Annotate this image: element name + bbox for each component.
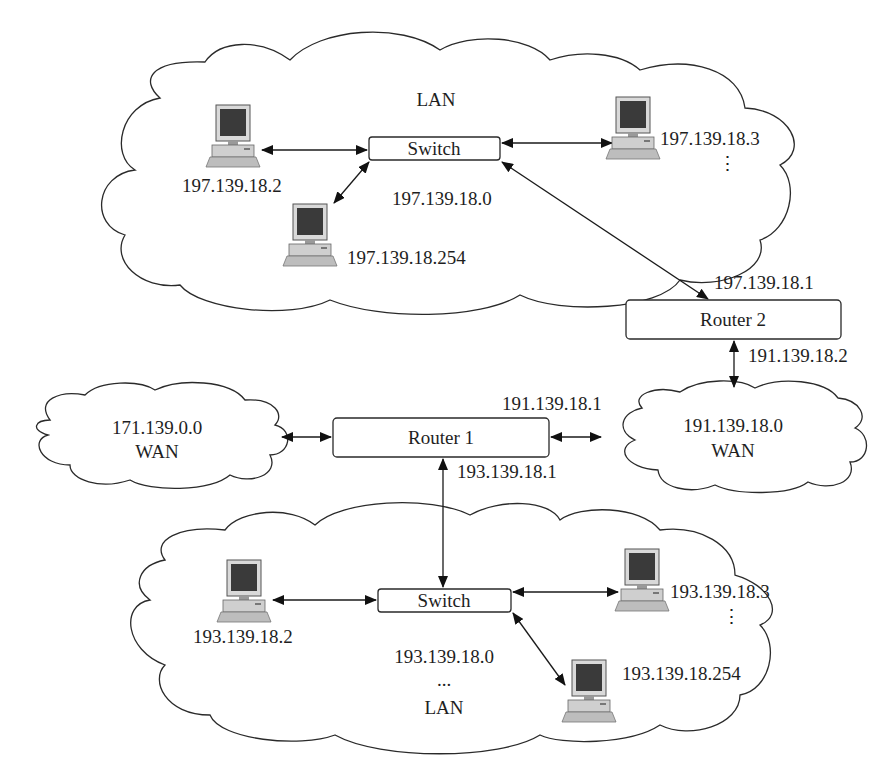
interface-ip-label: 191.139.18.1 (502, 393, 602, 414)
bottom-lan-label: LAN (424, 697, 463, 718)
wan-right-label: WAN (711, 440, 755, 461)
host-ip-label: 197.139.18.2 (182, 175, 282, 196)
router-2: Router 2 (626, 300, 841, 339)
network-address-label: 193.139.18.0 (394, 646, 494, 667)
top-lan-cloud (102, 32, 795, 314)
top-switch: Switch (369, 137, 500, 160)
interface-ip-label: 191.139.18.2 (748, 345, 848, 366)
host-ip-label: 197.139.18.254 (347, 247, 466, 268)
bottom-switch: Switch (378, 589, 511, 612)
top-lan-label: LAN (416, 89, 455, 110)
router-1: Router 1 (333, 418, 549, 457)
wan-right-cloud (623, 381, 866, 493)
bottom-switch-label: Switch (418, 590, 471, 611)
network-diagram: Switch Router 2 Router 1 Switch LAN 197.… (0, 0, 886, 783)
wan-right-network-label: 191.139.18.0 (683, 415, 783, 436)
network-address-label: 197.139.18.0 (392, 188, 492, 209)
ellipsis: ⋮ (718, 153, 737, 174)
interface-ip-label: 197.139.18.1 (714, 272, 814, 293)
host-ip-label: 197.139.18.3 (660, 128, 760, 149)
ellipsis: ⋮ (722, 606, 741, 627)
host-ip-label: 193.139.18.254 (622, 663, 741, 684)
router-2-label: Router 2 (700, 309, 766, 330)
interface-ip-label: 193.139.18.1 (457, 461, 557, 482)
network-ellipsis: ... (437, 669, 451, 690)
wan-left-label: WAN (135, 441, 179, 462)
wan-left-network-label: 171.139.0.0 (112, 417, 202, 438)
host-ip-label: 193.139.18.3 (670, 581, 770, 602)
host-ip-label: 193.139.18.2 (193, 626, 293, 647)
top-switch-label: Switch (408, 138, 461, 159)
router-1-label: Router 1 (408, 427, 474, 448)
